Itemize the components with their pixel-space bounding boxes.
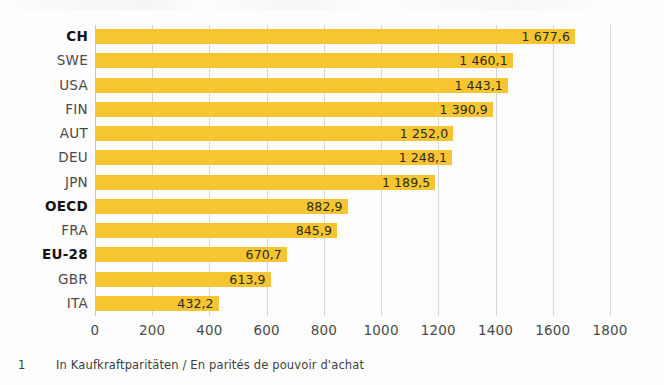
category-label-swe: SWE <box>0 49 88 73</box>
bar-row: 845,9 <box>95 219 610 243</box>
x-tick-200: 200 <box>139 322 165 338</box>
x-tick-400: 400 <box>196 322 222 338</box>
plot-area: 1 677,61 460,11 443,11 390,91 252,01 248… <box>95 25 610 316</box>
bar-row: 1 189,5 <box>95 171 610 195</box>
bar-value-jpn: 1 189,5 <box>374 173 430 192</box>
bar-row: 1 677,6 <box>95 25 610 49</box>
bar-value-swe: 1 460,1 <box>452 51 508 70</box>
bar-ch <box>95 29 575 44</box>
bar-row: 432,2 <box>95 292 610 316</box>
x-tick-1000: 1000 <box>364 322 399 338</box>
bar-value-fra: 845,9 <box>276 221 332 240</box>
footnote-text: In Kaufkraftparitäten / En parités de po… <box>56 358 364 372</box>
footnote: 1 In Kaufkraftparitäten / En parités de … <box>0 358 664 380</box>
horizontal-bar-chart: CHSWEUSAFINAUTDEUJPNOECDFRAEU-28GBRITA 1… <box>0 0 664 385</box>
category-label-aut: AUT <box>0 122 88 146</box>
bar-value-oecd: 882,9 <box>287 197 343 216</box>
bar-value-deu: 1 248,1 <box>391 148 447 167</box>
x-tick-600: 600 <box>253 322 279 338</box>
category-label-eu-28: EU-28 <box>0 243 88 267</box>
bar-row: 1 248,1 <box>95 146 610 170</box>
category-label-usa: USA <box>0 74 88 98</box>
bar-value-gbr: 613,9 <box>210 270 266 289</box>
category-label-jpn: JPN <box>0 171 88 195</box>
bar-row: 1 252,0 <box>95 122 610 146</box>
category-label-fra: FRA <box>0 219 88 243</box>
bar-value-eu-28: 670,7 <box>226 245 282 264</box>
category-label-fin: FIN <box>0 98 88 122</box>
footnote-marker: 1 <box>18 358 25 372</box>
category-label-gbr: GBR <box>0 268 88 292</box>
bar-row: 882,9 <box>95 195 610 219</box>
bar-value-aut: 1 252,0 <box>392 124 448 143</box>
bar-row: 1 390,9 <box>95 98 610 122</box>
x-tick-1600: 1600 <box>535 322 570 338</box>
category-label-deu: DEU <box>0 146 88 170</box>
category-label-ita: ITA <box>0 292 88 316</box>
category-label-ch: CH <box>0 25 88 49</box>
bars-layer: 1 677,61 460,11 443,11 390,91 252,01 248… <box>95 25 610 316</box>
x-axis-tick-labels: 020040060080010001200140016001800 <box>0 322 664 344</box>
x-tick-0: 0 <box>91 322 100 338</box>
bar-value-usa: 1 443,1 <box>447 76 503 95</box>
bar-row: 1 460,1 <box>95 49 610 73</box>
gridline-1800 <box>610 25 611 316</box>
bar-value-ch: 1 677,6 <box>514 27 570 46</box>
bar-row: 613,9 <box>95 268 610 292</box>
category-label-oecd: OECD <box>0 195 88 219</box>
bar-row: 670,7 <box>95 243 610 267</box>
category-axis-labels: CHSWEUSAFINAUTDEUJPNOECDFRAEU-28GBRITA <box>0 25 88 316</box>
bar-value-fin: 1 390,9 <box>432 100 488 119</box>
x-tick-1400: 1400 <box>478 322 513 338</box>
bar-value-ita: 432,2 <box>158 294 214 313</box>
bar-swe <box>95 53 513 68</box>
x-tick-1200: 1200 <box>421 322 456 338</box>
x-tick-800: 800 <box>311 322 337 338</box>
bar-row: 1 443,1 <box>95 74 610 98</box>
x-tick-1800: 1800 <box>592 322 627 338</box>
